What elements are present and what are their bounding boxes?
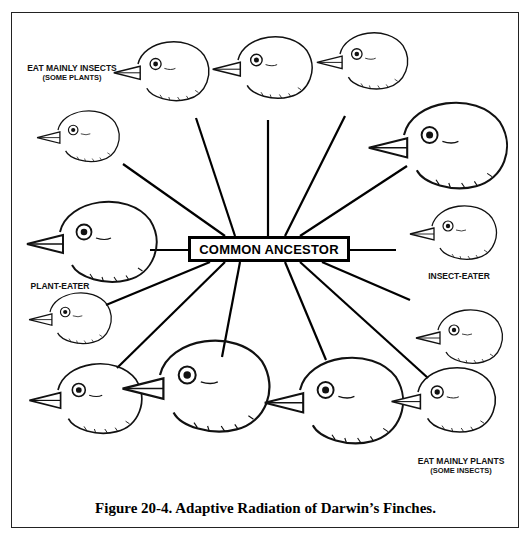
group-label-plants-some-insects: EAT MAINLY PLANTS (SOME INSECTS): [410, 457, 512, 475]
group-label-insect-eater: INSECT-EATER: [418, 272, 500, 282]
group-label-insects-some-plants: EAT MAINLY INSECTS (SOME PLANTS): [18, 64, 126, 82]
figure-caption: Figure 20-4. Adaptive Radiation of Darwi…: [0, 500, 531, 517]
group-label-plant-eater: PLANT-EATER: [20, 282, 100, 292]
common-ancestor-label: COMMON ANCESTOR: [199, 242, 339, 257]
common-ancestor-box: COMMON ANCESTOR: [188, 236, 350, 262]
